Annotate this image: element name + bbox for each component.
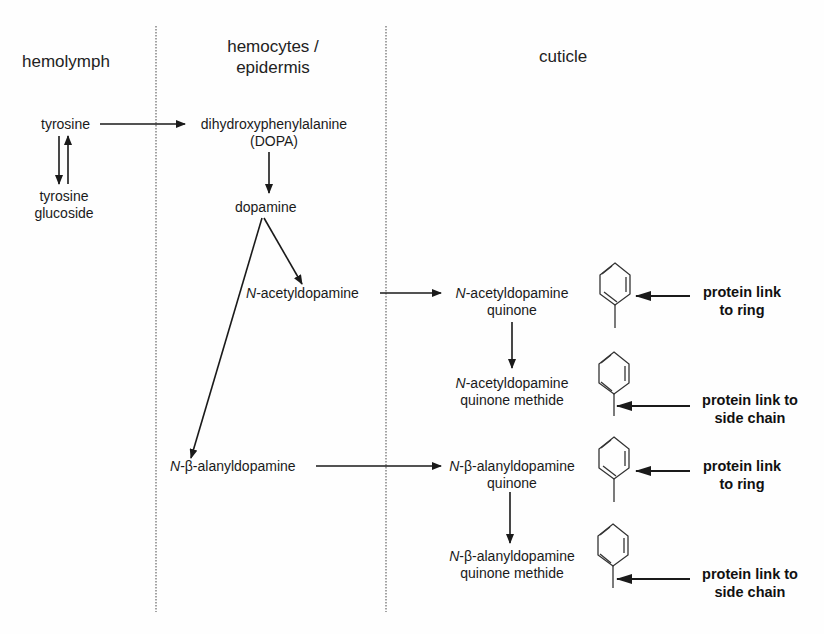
annotation-protein-link-side-chain-1: protein link to side chain (690, 391, 810, 427)
sclerotization-pathway-diagram: hemolymph hemocytes / epidermis cuticle … (0, 0, 824, 634)
column-header-hemocytes-line1: hemocytes / (213, 36, 333, 57)
node-dopamine: dopamine (235, 199, 297, 216)
arrow-dopamine-to-nada (264, 218, 302, 284)
annotation-protein-link-ring-1: protein link to ring (692, 283, 792, 319)
column-header-hemocytes: hemocytes / epidermis (213, 36, 333, 78)
annotation-protein-link-side-chain-2: protein link to side chain (690, 565, 810, 601)
quinone-ring-icon-1 (600, 263, 630, 328)
annotation-protein-link-ring-2: protein link to ring (692, 457, 792, 493)
node-tyrosine: tyrosine (41, 116, 90, 133)
node-n-beta-alanyldopamine: N-β-alanyldopamine (170, 458, 296, 475)
column-header-hemocytes-line2: epidermis (213, 57, 333, 78)
node-n-acetyldopamine: N-acetyldopamine (246, 285, 359, 302)
node-dopa: dihydroxyphenylalanine (DOPA) (190, 116, 358, 150)
node-nada-quinone: N-acetyldopamine quinone (448, 285, 576, 319)
node-nbad-quinone-methide: N-β-alanyldopamine quinone methide (444, 548, 580, 582)
quinone-ring-icon-2 (599, 437, 629, 502)
node-nada-quinone-methide: N-acetyldopamine quinone methide (448, 375, 576, 409)
column-header-cuticle: cuticle (539, 46, 587, 67)
node-tyrosine-glucoside: tyrosine glucoside (32, 188, 96, 222)
column-header-hemolymph: hemolymph (22, 51, 110, 72)
node-nbad-quinone: N-β-alanyldopamine quinone (444, 458, 580, 492)
arrow-dopamine-to-nbad (191, 218, 262, 458)
